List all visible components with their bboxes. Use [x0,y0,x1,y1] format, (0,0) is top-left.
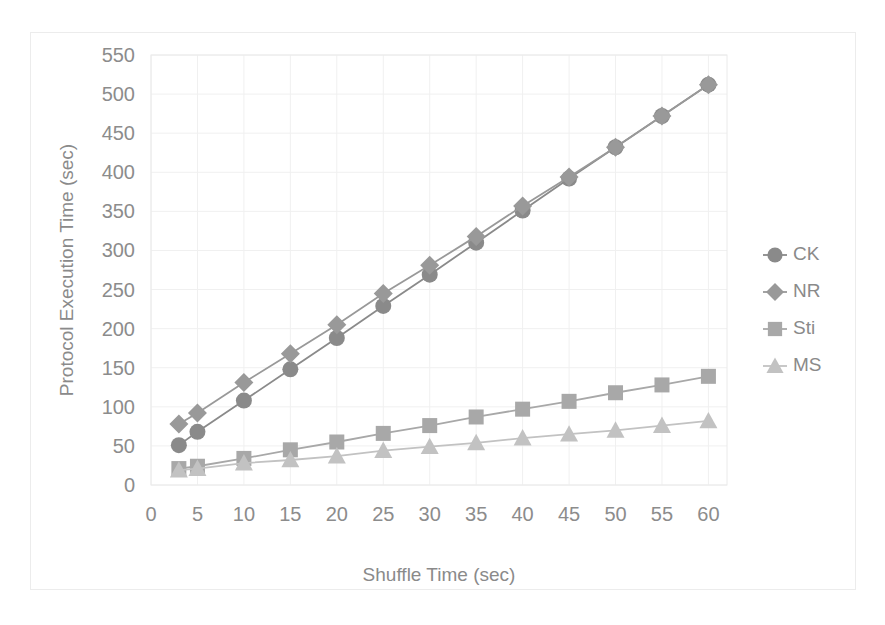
series-nr [169,75,718,433]
x-axis-tick-label: 55 [651,503,673,525]
x-axis-tick-label: 0 [145,503,156,525]
marker-diamond [606,138,625,157]
y-axis-tick-label: 300 [102,239,135,261]
x-axis-tick-label: 10 [233,503,255,525]
legend-item-ck[interactable]: CK [763,243,820,264]
legend-item-ms[interactable]: MS [763,354,822,375]
legend-item-label: MS [793,354,822,375]
marker-diamond [234,373,253,392]
marker-diamond [374,284,393,303]
marker-circle [282,361,298,377]
y-axis-tick-label: 0 [124,474,135,496]
x-axis-tick-label: 25 [372,503,394,525]
y-axis-tick-labels: 050100150200250300350400450500550 [102,44,135,496]
marker-diamond [169,415,188,434]
x-axis-tick-label: 20 [326,503,348,525]
legend-item-label: NR [793,280,820,301]
y-axis-tick-label: 100 [102,396,135,418]
marker-diamond [699,75,718,94]
series-sti [171,369,716,476]
marker-square [654,377,669,392]
legend-item-nr[interactable]: NR [763,280,820,301]
marker-square [422,418,437,433]
marker-square [768,322,782,336]
x-axis-tick-labels: 051015202530354045505560 [145,503,719,525]
x-axis-title: Shuffle Time (sec) [363,564,516,585]
x-axis-tick-label: 50 [604,503,626,525]
marker-square [376,426,391,441]
legend-item-label: Sti [793,317,815,338]
legend: CKNRStiMS [763,243,822,375]
x-axis-tick-label: 15 [279,503,301,525]
series-line [179,85,709,424]
x-axis-tick-label: 45 [558,503,580,525]
marker-diamond [327,315,346,334]
x-axis-tick-label: 60 [697,503,719,525]
y-axis-tick-label: 50 [113,435,135,457]
y-axis-tick-label: 200 [102,318,135,340]
marker-triangle [699,412,717,428]
series-layer [169,75,718,477]
y-axis-tick-label: 350 [102,200,135,222]
marker-circle [171,437,187,453]
marker-square [469,409,484,424]
plot-gridlines [151,55,727,485]
chart-canvas: 050100150200250300350400450500550 051015… [31,33,857,591]
marker-diamond [652,106,671,125]
legend-item-sti[interactable]: Sti [763,317,815,338]
y-axis-tick-label: 400 [102,161,135,183]
y-axis-tick-label: 500 [102,83,135,105]
marker-square [515,402,530,417]
marker-circle [236,393,252,409]
y-axis-tick-label: 450 [102,122,135,144]
y-axis-tick-label: 550 [102,44,135,66]
marker-diamond [281,344,300,363]
marker-square [701,369,716,384]
x-axis-tick-label: 40 [511,503,533,525]
x-axis-tick-label: 30 [419,503,441,525]
x-axis-tick-label: 5 [192,503,203,525]
marker-circle [189,424,205,440]
y-axis-tick-label: 250 [102,279,135,301]
legend-item-label: CK [793,243,820,264]
y-axis-tick-label: 150 [102,357,135,379]
chart-figure: 050100150200250300350400450500550 051015… [30,32,856,590]
y-axis-title: Protocol Execution Time (sec) [56,144,77,396]
series-ms [170,412,718,478]
marker-square [562,394,577,409]
plot-area-border [151,55,727,485]
marker-square [608,385,623,400]
marker-diamond [766,283,784,301]
marker-circle [767,247,782,262]
x-axis-tick-label: 35 [465,503,487,525]
